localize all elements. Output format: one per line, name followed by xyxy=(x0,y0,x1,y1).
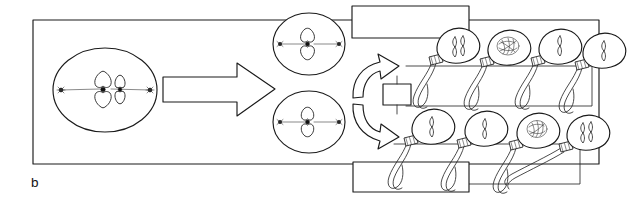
big-block-arrow-right xyxy=(163,63,275,116)
meiosis-spermatogenesis-diagram xyxy=(0,0,639,215)
sperm-head xyxy=(567,115,610,150)
figure-panel-b: b xyxy=(0,0,639,215)
sperm-tail xyxy=(464,64,483,109)
split-curved-arrow-lower xyxy=(353,104,399,149)
secondary-spermatocyte-lower xyxy=(273,91,345,153)
sperm-head xyxy=(465,111,508,146)
secondary-spermatocyte-upper xyxy=(273,13,345,75)
sperm-head xyxy=(412,109,455,144)
label-box-middle-small[interactable] xyxy=(383,84,411,105)
bracket-top-row xyxy=(406,66,592,106)
sperm-tail-long-outer xyxy=(508,152,564,189)
sperm-tail xyxy=(413,62,432,107)
sperm-tail xyxy=(515,63,534,108)
spermatid-row-top xyxy=(413,28,626,113)
sperm-tail-main xyxy=(493,147,512,192)
sperm-1 xyxy=(413,28,480,108)
panel-letter-label: b xyxy=(31,176,39,190)
primary-spermatocyte xyxy=(53,48,157,132)
